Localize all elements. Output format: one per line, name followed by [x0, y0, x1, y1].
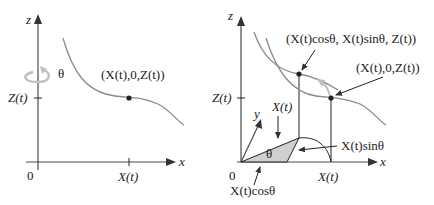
x-axis-label: x [178, 154, 185, 169]
z-axis-label: z [227, 8, 233, 23]
sin-label: X(t)sinθ [341, 138, 384, 153]
x-tick-label: X(t) [317, 169, 338, 184]
z-axis-arrowhead-icon [34, 14, 42, 24]
z-axis-label: z [25, 12, 31, 27]
x-axis-arrowhead-icon [368, 158, 378, 166]
cos-label: X(t)cosθ [230, 183, 275, 198]
rotated-curve-point [296, 71, 301, 76]
y-axis-label: y [252, 106, 260, 121]
z-tick-label: Z(t) [8, 90, 28, 105]
x-axis-arrowhead-icon [166, 158, 176, 166]
diagram-canvas: z x 0 θ Z(t) X(t) (X(t),0,Z(t)) z [0, 0, 434, 205]
origin-label: 0 [229, 168, 236, 183]
x-tick-label: X(t) [117, 169, 138, 184]
left-panel: z x 0 θ Z(t) X(t) (X(t),0,Z(t)) [8, 12, 185, 184]
origin-label: 0 [27, 168, 34, 183]
point-label: (X(t),0,Z(t)) [356, 60, 420, 75]
point-label: (X(t),0,Z(t)) [101, 67, 165, 82]
rotated-point-label: (X(t)cosθ, X(t)sinθ, Z(t)) [286, 31, 416, 46]
z-axis-arrowhead-icon [237, 16, 245, 26]
right-panel: z x y 0 Z(t) θ (X(t)cosθ, X(t)sin [212, 8, 420, 198]
rotation-theta-label: θ [58, 66, 64, 81]
point-pointer-arrow [336, 77, 383, 95]
rotated-point-pointer-arrow [302, 50, 315, 70]
radius-label: X(t) [271, 99, 292, 114]
curve-point [328, 95, 333, 100]
rotation-arrow-icon [25, 66, 49, 82]
z-tick-label: Z(t) [212, 90, 232, 105]
curve-point [126, 95, 131, 100]
angle-theta-label: θ [266, 146, 272, 161]
x-axis-label: x [379, 154, 386, 169]
